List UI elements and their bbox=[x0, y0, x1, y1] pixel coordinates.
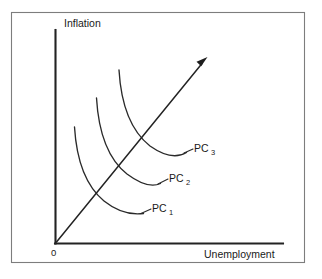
leader-line-pc1 bbox=[141, 209, 151, 214]
phillips-curve-canvas: Inflation Unemployment 0 PC 1 PC 2 PC 3 bbox=[0, 0, 322, 279]
curve-label-pc2-main: PC bbox=[169, 172, 184, 184]
curve-label-pc2: PC 2 bbox=[169, 172, 190, 187]
curve-pc3 bbox=[119, 70, 187, 156]
curve-label-pc1: PC 1 bbox=[152, 202, 173, 217]
curve-label-pc1-main: PC bbox=[152, 202, 167, 214]
curve-pc2 bbox=[97, 98, 161, 185]
curve-label-pc1-sub: 1 bbox=[169, 208, 173, 217]
y-axis-label: Inflation bbox=[64, 17, 101, 29]
x-axis-label: Unemployment bbox=[204, 248, 275, 260]
curve-label-pc3: PC 3 bbox=[194, 142, 215, 157]
curve-label-pc3-sub: 3 bbox=[211, 148, 215, 157]
curve-label-pc2-sub: 2 bbox=[186, 178, 190, 187]
phillips-curve-figure: Inflation Unemployment 0 PC 1 PC 2 PC 3 bbox=[0, 0, 322, 279]
leader-line-pc3 bbox=[184, 149, 193, 153]
leader-line-pc2 bbox=[158, 179, 168, 184]
origin-label: 0 bbox=[51, 247, 56, 258]
curve-label-pc3-main: PC bbox=[194, 142, 209, 154]
curve-pc1 bbox=[75, 127, 144, 214]
shift-arrow-head-icon bbox=[197, 57, 208, 66]
